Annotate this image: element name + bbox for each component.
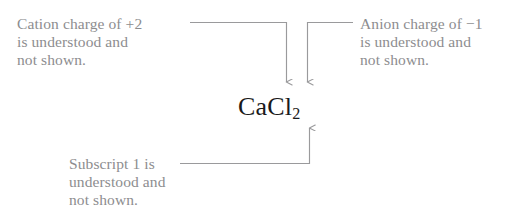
formula-base: CaCl bbox=[238, 92, 292, 121]
chemical-formula-annotation-figure: Cation charge of +2 is understood and no… bbox=[0, 0, 527, 220]
leader-line-cation bbox=[190, 23, 287, 83]
annotation-cation-charge: Cation charge of +2 is understood and no… bbox=[17, 15, 142, 69]
leader-line-subscript bbox=[180, 128, 310, 164]
leader-line-anion bbox=[308, 23, 354, 83]
formula-subscript: 2 bbox=[292, 105, 300, 122]
annotation-subscript: Subscript 1 is understood and not shown. bbox=[69, 155, 166, 209]
annotation-anion-charge: Anion charge of −1 is understood and not… bbox=[360, 15, 483, 69]
chemical-formula: CaCl2 bbox=[238, 92, 300, 123]
